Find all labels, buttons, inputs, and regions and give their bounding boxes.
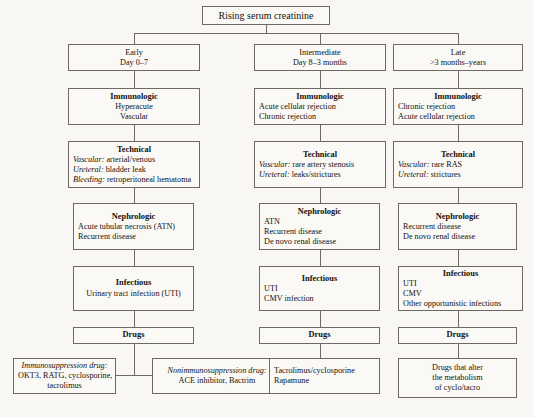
node-early-nephrologic-item-1: Recurrent disease — [78, 232, 189, 242]
node-early-immunosuppression-drug-item-0: OKT3, RATG, cyclosporine, — [18, 371, 111, 381]
column-header-late-subtitle: >3 months–years — [398, 58, 518, 68]
node-early-technical-item-0: Vascular: arterial/venous — [73, 155, 195, 165]
node-early-immunologic-header: Immunologic — [73, 92, 195, 102]
node-intermediate-immunologic-item-1: Chronic rejection — [259, 112, 381, 122]
column-header-late: Late >3 months–years — [393, 44, 523, 71]
node-intermediate-drug-detail-item-0: Tacrolimus/cyclosporine — [274, 366, 375, 376]
node-early-immunosuppression-drug-item-1: tacrolimus — [18, 381, 111, 391]
node-early-technical-item-2-label: Bleeding: — [73, 175, 105, 184]
connector-early-drugs-stem — [134, 344, 135, 375]
node-early-nephrologic: Nephrologic Acute tubular necrosis (ATN)… — [73, 203, 194, 250]
node-early-immunosuppression-drug-label: Immunosuppression drug: — [18, 361, 111, 371]
node-late-infectious-item-2: Other opportunistic infections — [403, 299, 518, 309]
flowchart-canvas: Rising serum creatinine Early Day 0–7 Im… — [0, 0, 534, 417]
connector-intermediate-drugs-to-detail — [320, 344, 321, 358]
column-header-intermediate-subtitle: Day 8–3 months — [259, 58, 381, 68]
node-intermediate-technical: Technical Vascular: rare artery stenosis… — [254, 141, 386, 188]
node-late-immunologic-item-0: Chronic rejection — [398, 102, 518, 112]
connector-early-infectious-to-drugs — [134, 311, 135, 327]
node-late-drugs-header: Drugs — [403, 330, 512, 340]
node-late-drug-detail-item-0: Drugs that alter — [403, 363, 512, 373]
node-early-immunosuppression-drug: Immunosuppression drug: OKT3, RATG, cycl… — [13, 358, 116, 394]
node-late-technical-item-0-label: Vascular: — [398, 160, 429, 169]
node-early-technical-item-1-text: bladder leak — [106, 165, 146, 174]
node-early-immunologic: Immunologic Hyperacute Vascular — [68, 88, 200, 125]
node-late-nephrologic-item-1: De novo renal disease — [403, 232, 512, 242]
connector-intermediate-immunologic-to-technical — [320, 125, 321, 141]
column-header-intermediate-title: Intermediate — [259, 48, 381, 58]
connector-early-header-to-immunologic — [134, 71, 135, 88]
connector-late-immunologic-to-technical — [458, 125, 459, 141]
node-early-technical-item-1: Ureteral: bladder leak — [73, 165, 195, 175]
node-intermediate-technical-item-1-text: leaks/strictures — [292, 170, 341, 179]
connector-late-technical-to-nephrologic — [458, 188, 459, 203]
column-header-early-subtitle: Day 0–7 — [73, 58, 195, 68]
node-early-nephrologic-header: Nephrologic — [78, 212, 189, 222]
node-early-immunologic-item-1: Vascular — [73, 112, 195, 122]
node-late-immunologic-header: Immunologic — [398, 92, 518, 102]
column-header-early-title: Early — [73, 48, 195, 58]
node-late-drug-detail-item-2: of cyclo/tacro — [403, 383, 512, 393]
node-intermediate-immunologic-header: Immunologic — [259, 92, 381, 102]
connector-late-nephrologic-to-infectious — [458, 250, 459, 266]
node-intermediate-technical-item-0-label: Vascular: — [259, 160, 290, 169]
node-early-immunologic-item-0: Hyperacute — [73, 102, 195, 112]
node-late-drugs: Drugs — [398, 327, 517, 344]
connector-distribution-bar — [134, 33, 458, 34]
node-late-nephrologic-item-0: Recurrent disease — [403, 222, 512, 232]
node-early-technical: Technical Vascular: arterial/venous Uret… — [68, 141, 200, 188]
node-late-infectious: Infectious UTI CMV Other opportunistic i… — [398, 266, 523, 311]
root-node-label: Rising serum creatinine — [207, 10, 325, 22]
connector-early-technical-to-nephrologic — [134, 188, 135, 203]
node-intermediate-drug-detail-item-1: Rapamune — [274, 376, 375, 386]
node-intermediate-drugs: Drugs — [259, 327, 380, 344]
node-early-nonimmunosuppression-drug-label: Nonimmunosuppression drug: — [157, 366, 277, 376]
node-late-infectious-item-0: UTI — [403, 279, 518, 289]
node-intermediate-infectious-item-1: CMV infection — [264, 294, 375, 304]
node-late-drug-detail: Drugs that alter the metabolism of cyclo… — [398, 358, 517, 398]
node-early-nonimmunosuppression-drug-item-0: ACE inhibitor, Bactrim — [157, 376, 277, 386]
connector-root-stem — [266, 25, 267, 33]
node-early-technical-item-2-text: retroperitoneal hematoma — [107, 175, 191, 184]
node-late-immunologic: Immunologic Chronic rejection Acute cell… — [393, 88, 523, 125]
node-intermediate-nephrologic-item-2: De novo renal disease — [264, 237, 375, 247]
column-header-early: Early Day 0–7 — [68, 44, 200, 71]
connector-drop-col2 — [320, 33, 321, 44]
connector-intermediate-technical-to-nephrologic — [320, 188, 321, 203]
node-late-infectious-item-1: CMV — [403, 289, 518, 299]
node-early-infectious-item-0: Urinary tract infection (UTI) — [78, 289, 189, 299]
node-intermediate-infectious-item-0: UTI — [264, 284, 375, 294]
node-late-technical-header: Technical — [398, 150, 518, 160]
node-intermediate-technical-item-0: Vascular: rare artery stenosis — [259, 160, 381, 170]
node-intermediate-technical-item-1: Ureteral: leaks/strictures — [259, 170, 381, 180]
node-intermediate-technical-item-0-text: rare artery stenosis — [292, 160, 354, 169]
node-early-technical-item-1-label: Ureteral: — [73, 165, 104, 174]
connector-early-drugs-split — [116, 375, 152, 376]
node-late-technical-item-1: Ureteral: strictures — [398, 170, 518, 180]
node-late-technical-item-1-label: Ureteral: — [398, 170, 429, 179]
root-node-rising-serum-creatinine: Rising serum creatinine — [202, 6, 330, 25]
connector-intermediate-infectious-to-drugs — [320, 311, 321, 327]
node-intermediate-infectious: Infectious UTI CMV infection — [259, 266, 380, 311]
connector-early-immunologic-to-technical — [134, 125, 135, 141]
node-early-infectious: Infectious Urinary tract infection (UTI) — [73, 266, 194, 311]
connector-late-header-to-immunologic — [458, 71, 459, 88]
column-header-late-title: Late — [398, 48, 518, 58]
node-early-nephrologic-item-0: Acute tubular necrosis (ATN) — [78, 222, 189, 232]
connector-drop-col1 — [134, 33, 135, 44]
node-early-technical-item-0-text: arterial/venous — [106, 155, 155, 164]
node-early-infectious-header: Infectious — [78, 278, 189, 288]
node-late-technical-item-1-text: strictures — [431, 170, 461, 179]
node-intermediate-nephrologic-item-1: Recurrent disease — [264, 227, 375, 237]
node-intermediate-nephrologic-item-0: ATN — [264, 217, 375, 227]
node-intermediate-nephrologic: Nephrologic ATN Recurrent disease De nov… — [259, 203, 380, 250]
connector-intermediate-header-to-immunologic — [320, 71, 321, 88]
node-late-drug-detail-item-1: the metabolism — [403, 373, 512, 383]
node-intermediate-immunologic-item-0: Acute cellular rejection — [259, 102, 381, 112]
node-intermediate-immunologic: Immunologic Acute cellular rejection Chr… — [254, 88, 386, 125]
node-late-technical: Technical Vascular: rare RAS Ureteral: s… — [393, 141, 523, 188]
node-late-technical-item-0: Vascular: rare RAS — [398, 160, 518, 170]
connector-late-drugs-to-detail — [458, 344, 459, 358]
node-early-drugs: Drugs — [73, 327, 194, 344]
node-late-immunologic-item-1: Acute cellular rejection — [398, 112, 518, 122]
